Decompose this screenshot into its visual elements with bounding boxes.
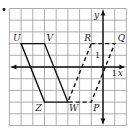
coordinate-grid: yx11 UVWZRQP (0, 0, 134, 134)
y-axis-arrow-down-icon (101, 119, 106, 124)
x-axis-arrow-left-icon (11, 65, 16, 70)
y-axis-label: y (93, 10, 100, 20)
point-label-W: W (69, 103, 79, 113)
point-label-Q: Q (118, 33, 126, 43)
point-label-U: U (13, 33, 21, 43)
coordinate-plane-figure: • yx11 UVWZRQP (0, 0, 134, 134)
point-label-V: V (47, 33, 55, 43)
x-tick-label: 1 (112, 69, 117, 78)
point-label-P: P (92, 103, 100, 113)
bullet-marker: • (1, 5, 7, 15)
point-labels: UVWZRQP (13, 33, 126, 114)
y-tick-label: 1 (95, 51, 100, 60)
x-axis-label: x (118, 68, 123, 78)
point-label-Z: Z (35, 103, 43, 113)
point-label-R: R (83, 33, 91, 43)
y-axis-arrow-up-icon (101, 11, 106, 16)
